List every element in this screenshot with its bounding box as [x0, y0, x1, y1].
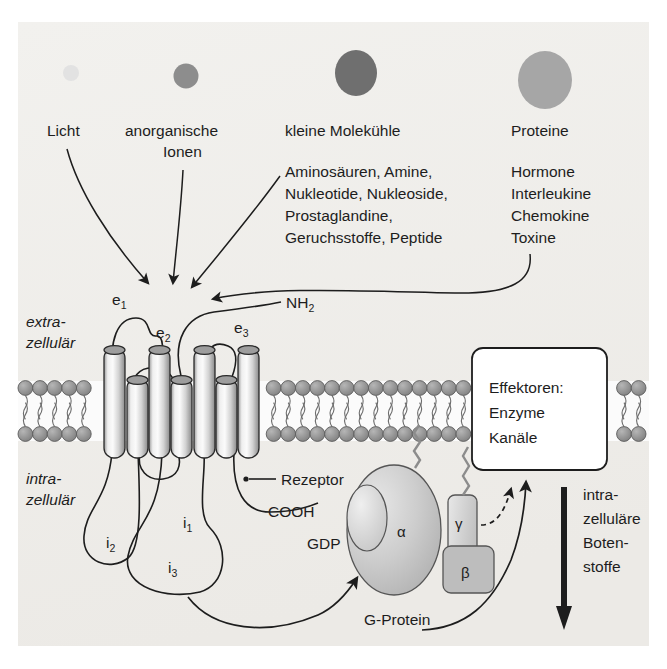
lipid-head: [441, 427, 456, 442]
lipid-head: [383, 427, 398, 442]
helix-4: [171, 376, 192, 458]
lipid-head: [62, 427, 77, 442]
lipid-head: [617, 427, 632, 442]
lipid-head: [427, 427, 442, 442]
helix-1: [104, 346, 125, 458]
lipid-head: [398, 427, 413, 442]
ligand-circle-light: [63, 65, 79, 81]
effector-line-2: Enzyme: [489, 404, 545, 421]
lipid-head: [76, 427, 91, 442]
helix-6: [216, 376, 237, 458]
helix-2: [127, 376, 148, 458]
protein-list-item: Toxine: [511, 229, 556, 246]
lipid-head: [427, 381, 442, 396]
lipid-head: [310, 381, 325, 396]
lipid-head: [310, 427, 325, 442]
ligand-label-proteins: Proteine: [511, 122, 569, 139]
effector-box: Effektoren: Enzyme Kanäle: [472, 348, 607, 470]
lipid-head: [325, 427, 340, 442]
protein-list-item: Interleukine: [511, 185, 591, 202]
g-gamma-label: γ: [455, 515, 463, 532]
lipid-head: [368, 427, 383, 442]
lipid-head: [617, 381, 632, 396]
lipid-head: [339, 381, 354, 396]
lipid-head: [383, 381, 398, 396]
helix-3: [149, 346, 170, 458]
ligand-label-light: Licht: [47, 122, 80, 139]
lipid-head: [631, 427, 646, 442]
lipid-head: [266, 427, 281, 442]
lipid-head: [266, 381, 281, 396]
lipid-head: [18, 427, 33, 442]
effector-line-1: Effektoren:: [489, 379, 564, 396]
lipid-head: [412, 381, 427, 396]
ligand-label-small-molecules: kleine Molekühle: [285, 122, 400, 139]
lipid-head: [295, 427, 310, 442]
figure-canvas: Licht anorganische Ionen kleine Molekühl…: [0, 0, 667, 669]
lipid-head: [295, 381, 310, 396]
protein-list-item: Hormone: [511, 163, 575, 180]
extracellular-label-line1: extra-: [26, 313, 66, 330]
lipid-head: [33, 381, 48, 396]
ligand-circle-inorganic-ions: [174, 64, 199, 89]
lipid-head: [398, 381, 413, 396]
lipid-head: [354, 381, 369, 396]
c-terminus-label: COOH: [268, 503, 315, 520]
g-alpha-nucleotide-pocket: [347, 485, 387, 551]
receptor-label: Rezeptor: [281, 471, 344, 488]
intracellular-label-line1: intra-: [26, 470, 61, 487]
lipid-head: [18, 381, 33, 396]
lipid-head: [441, 381, 456, 396]
receptor-callout-dot: [243, 476, 248, 481]
lipid-head: [281, 381, 296, 396]
helix-7: [238, 346, 259, 458]
g-alpha-label: α: [397, 523, 406, 540]
second-messenger-line-4: stoffe: [583, 558, 621, 575]
ligand-circle-proteins: [518, 51, 572, 109]
ligand-label-inorganic-ions-2: Ionen: [163, 143, 202, 160]
gdp-label: GDP: [307, 535, 341, 552]
ligand-circle-small-molecules: [335, 50, 377, 96]
lipid-head: [631, 381, 646, 396]
small-molecule-list-item: Nukleotide, Nukleoside,: [285, 185, 448, 202]
intracellular-label-line2: zellulär: [25, 491, 76, 508]
lipid-head: [456, 427, 471, 442]
second-messenger-line-3: Boten-: [583, 534, 629, 551]
helix-5: [194, 346, 215, 458]
lipid-head: [281, 427, 296, 442]
lipid-head: [47, 427, 62, 442]
extracellular-label-line2: zellulär: [25, 334, 76, 351]
g-beta-label: β: [461, 564, 470, 581]
gpcr-signalling-diagram: Licht anorganische Ionen kleine Molekühl…: [0, 0, 667, 669]
lipid-head: [325, 381, 340, 396]
second-messenger-line-1: intra-: [583, 486, 618, 503]
effector-line-3: Kanäle: [489, 429, 537, 446]
g-protein-label: G-Protein: [364, 611, 430, 628]
lipid-head: [368, 381, 383, 396]
lipid-head: [62, 381, 77, 396]
small-molecule-list-item: Geruchsstoffe, Peptide: [285, 229, 442, 246]
lipid-head: [47, 381, 62, 396]
lipid-head: [33, 427, 48, 442]
lipid-head: [339, 427, 354, 442]
protein-list-item: Chemokine: [511, 207, 589, 224]
lipid-head: [456, 381, 471, 396]
lipid-head: [76, 381, 91, 396]
ligand-label-inorganic-ions: anorganische: [125, 122, 218, 139]
second-messenger-line-2: zelluläre: [583, 510, 641, 527]
small-molecule-list-item: Prostaglandine,: [285, 207, 393, 224]
lipid-head: [354, 427, 369, 442]
small-molecule-list-item: Aminosäuren, Amine,: [285, 163, 432, 180]
